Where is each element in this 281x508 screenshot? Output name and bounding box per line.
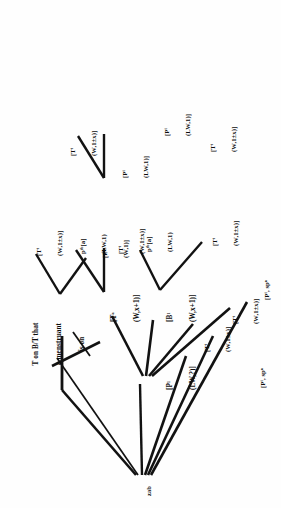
node-pb-a-2[interactable]: pᵗᵇ[a] (LW,1) [132, 232, 187, 252]
edge-root-to-top-branch [62, 390, 136, 475]
edge-annotation-to-pb [60, 258, 86, 294]
node-b1-top-line1: [B¹ [167, 294, 175, 322]
node-ta-top-line1: [Tᵃ [111, 294, 119, 322]
node-b1-top-line2: (W,x+1)] [190, 294, 198, 322]
edge-root-to-tt-left-2 [148, 336, 213, 475]
node-tt-branch-a-line2: (W,1±x)] [253, 299, 260, 324]
node-tt-branch-b[interactable]: [Tᵗ (W,1±x)] [56, 131, 111, 156]
annotation-line-2: a menstruant [56, 312, 64, 376]
node-ta-top-line2: (W,x+1)] [134, 294, 142, 322]
node-pb-a-1-line1: pᵗᵇ[a] [80, 234, 87, 254]
node-root-line1: zab [146, 486, 153, 496]
node-pt-sp-a[interactable]: [Pᵗ, spᵃ (LW,1)] [250, 278, 281, 300]
node-tt-lower-right-line2: (W,1±x)] [231, 127, 238, 152]
node-tt-lower-right-line1: [Tᵗ [210, 127, 217, 152]
node-pt-lower-1-line1: [Pᵗ [122, 156, 129, 178]
node-tt-2-line1: [Tᵗ [212, 221, 219, 246]
node-pt-sp-b[interactable]: [Pᵗ, spᵃ (LW,1)] [246, 366, 281, 388]
node-b1-top[interactable]: [B¹ (W,x+1)] [152, 294, 213, 322]
node-pt-lower-1[interactable]: [Pᵗ (LW,1)] [108, 156, 163, 178]
node-pt-lower-1-line2: (LW,1)] [143, 156, 150, 178]
node-tt-lower-right[interactable]: [Tᵗ (W,1±x)] [196, 127, 251, 152]
node-tt-branch-b-line1: [Tᵗ [70, 131, 77, 156]
annotation-line-1: T on B/T that [33, 312, 41, 376]
edge-annotation-to-tt [36, 254, 60, 294]
annotation-line-3: is on [79, 312, 87, 376]
node-tt-right-line1: [Tᵗ [36, 231, 43, 256]
node-pt-lower-2-line1: [Pᵗ [164, 114, 171, 136]
node-tt-lower-left[interactable]: [Tᵗ (W,1±x)] [190, 327, 245, 352]
node-tt-1-line1: [Tᵗ [118, 229, 125, 254]
node-tt-2-line2: (W,1±x)] [233, 221, 240, 246]
node-pb-a-2-line2: (LW,1) [167, 232, 174, 252]
node-tt-branch-a-line1: [Tᵗ [232, 299, 239, 324]
node-pb-a-2-line1: pᵗᵇ[a] [146, 232, 153, 252]
node-root[interactable]: zab [132, 486, 166, 496]
node-ta-top[interactable]: [Tᵃ (W,x+1)] [96, 294, 157, 322]
node-tt-branch-a[interactable]: [Tᵗ (W,1±x)] [218, 299, 273, 324]
node-tt-2[interactable]: [Tᵗ (W,1±x)] [198, 221, 253, 246]
node-tt-right-line2: (W,1±x)] [57, 231, 64, 256]
node-tt-lower-left-line1: [Tᵗ [204, 327, 211, 352]
node-pt-lower-2-line2: (LW,1)] [185, 114, 192, 136]
tree-diagram-canvas: zab T on B/T that a menstruant is on [Tᵗ… [0, 0, 281, 508]
node-p1-line2: (LW,?)] [190, 366, 198, 390]
edge-root-to-p1 [140, 384, 142, 475]
node-p1[interactable]: [P¹ (LW,?)] [152, 366, 213, 390]
figure-rotation-wrapper: zab T on B/T that a menstruant is on [Tᵗ… [0, 0, 281, 508]
node-p1-line1: [P¹ [167, 366, 175, 390]
node-pt-sp-b-line1: [Pᵗ, spᵃ [260, 366, 267, 388]
node-tt-branch-b-line2: (W,1±x)] [91, 131, 98, 156]
edge-p1-to-ta [112, 316, 143, 376]
node-tt-lower-left-line2: (W,1±x)] [225, 327, 232, 352]
node-pt-sp-a-line1: [Pᵗ, spᵃ [264, 278, 271, 300]
annotation-menstruant: T on B/T that a menstruant is on [18, 312, 101, 376]
